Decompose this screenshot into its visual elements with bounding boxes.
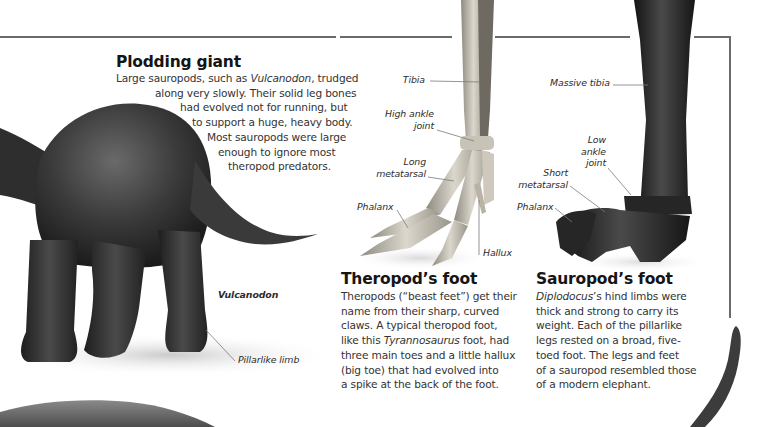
- theropod-foot-body: Theropods (“beast feet”) get their name …: [341, 289, 541, 392]
- plodding-giant-section: Plodding giant: [116, 53, 356, 71]
- sauropod-line-4: legs rested on a broad, five-: [536, 333, 736, 348]
- plodding-line-6: enough to ignore most: [218, 145, 335, 160]
- sauropod-line-5: toed foot. The legs and feet: [536, 348, 736, 363]
- low-ankle-joint-label: Low ankle joint: [578, 134, 606, 169]
- sauropod-line-7: of a modern elephant.: [536, 377, 736, 392]
- hallux-label: Hallux: [483, 247, 512, 259]
- theropod-line-4: like this Tyrannosaurus foot, had: [341, 333, 541, 348]
- theropod-line-2: name from their sharp, curved: [341, 304, 541, 319]
- theropod-line-3: claws. A typical theropod foot,: [341, 318, 541, 333]
- tibia-label: Tibia: [380, 74, 425, 86]
- sauropod-foot-section: Sauropod’s foot Diplodocus’s hind limbs …: [536, 270, 736, 392]
- theropod-line-6: (big toe) that had evolved into: [341, 363, 541, 378]
- plodding-line-2: along very slowly. Their solid leg bones: [155, 86, 356, 101]
- sauropod-foot-body: Diplodocus’s hind limbs were thick and s…: [536, 289, 736, 392]
- plodding-line-3: had evolved not for running, but: [180, 100, 347, 115]
- theropod-line-5: three main toes and a little hallux: [341, 348, 541, 363]
- theropod-line-7: a spike at the back of the foot.: [341, 377, 541, 392]
- vulcanodon-label: Vulcanodon: [218, 289, 278, 301]
- sauropod-line-2: thick and strong to carry its: [536, 304, 736, 319]
- plodding-giant-title: Plodding giant: [116, 53, 356, 71]
- sauropod-line-3: weight. Each of the pillarlike: [536, 318, 736, 333]
- plodding-line-4: to support a huge, heavy body.: [192, 115, 353, 130]
- sauropod-line-6: of a sauropod resembled those: [536, 363, 736, 378]
- high-ankle-joint-label: High ankle joint: [370, 108, 434, 131]
- theropod-line-1: Theropods (“beast feet”) get their: [341, 289, 541, 304]
- sauropod-line-1: Diplodocus’s hind limbs were: [536, 289, 736, 304]
- pillarlike-limb-label: Pillarlike limb: [238, 354, 299, 366]
- plodding-line-5: Most sauropods were large: [207, 130, 346, 145]
- plodding-line-7: theropod predators.: [228, 159, 331, 174]
- sauropod-foot-title: Sauropod’s foot: [536, 270, 736, 288]
- massive-tibia-label: Massive tibia: [550, 77, 610, 89]
- theropod-foot-title: Theropod’s foot: [341, 270, 541, 288]
- plodding-line-1: Large sauropods, such as Vulcanodon, tru…: [116, 71, 358, 86]
- sauropod-phalanx-label: Phalanx: [517, 201, 553, 213]
- long-metatarsal-label: Long metatarsal: [370, 156, 426, 179]
- short-metatarsal-label: Short metatarsal: [512, 167, 568, 190]
- theropod-phalanx-label: Phalanx: [357, 201, 393, 213]
- theropod-foot-section: Theropod’s foot Theropods (“beast feet”)…: [341, 270, 541, 392]
